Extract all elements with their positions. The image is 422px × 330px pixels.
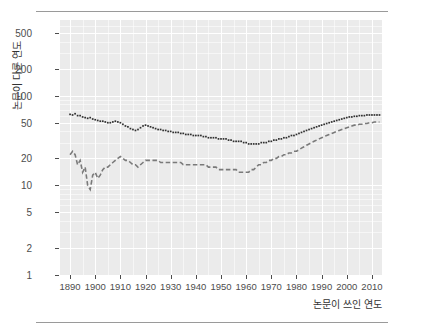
series-point-upper bbox=[172, 132, 174, 134]
series-point-upper bbox=[341, 118, 343, 120]
series-point-upper bbox=[303, 131, 305, 133]
series-point-upper bbox=[278, 138, 280, 140]
series-point-upper bbox=[145, 124, 147, 126]
y-axis-tick-label: 10 bbox=[21, 180, 32, 191]
y-axis-tick-mark bbox=[55, 33, 59, 34]
series-point-upper bbox=[205, 136, 207, 138]
series-point-upper bbox=[311, 128, 313, 130]
series-point-upper bbox=[331, 121, 333, 123]
y-axis-tick-label: 20 bbox=[21, 153, 32, 164]
series-point-upper bbox=[323, 123, 325, 125]
series-point-upper bbox=[210, 137, 212, 139]
series-point-upper bbox=[140, 127, 142, 129]
series-point-upper bbox=[233, 140, 235, 142]
series-point-upper bbox=[165, 130, 167, 132]
series-point-upper bbox=[185, 134, 187, 136]
series-point-upper bbox=[263, 142, 265, 144]
y-axis-tick-mark bbox=[55, 212, 59, 213]
series-point-upper bbox=[301, 132, 303, 134]
series-point-upper bbox=[238, 140, 240, 142]
series-point-upper bbox=[187, 134, 189, 136]
x-axis-tick-label: 1990 bbox=[311, 281, 332, 292]
series-point-upper bbox=[203, 136, 205, 138]
series-point-upper bbox=[286, 137, 288, 139]
series-point-upper bbox=[150, 126, 152, 128]
y-axis-title: 논문이 다른 연도 bbox=[9, 26, 24, 126]
x-axis-tick-mark bbox=[196, 275, 197, 279]
series-point-upper bbox=[117, 121, 119, 123]
series-point-upper bbox=[348, 116, 350, 118]
x-axis-tick-mark bbox=[271, 275, 272, 279]
x-axis-tick-label: 2010 bbox=[361, 281, 382, 292]
series-point-upper bbox=[109, 122, 111, 124]
series-point-upper bbox=[338, 119, 340, 121]
series-line-lower bbox=[70, 122, 379, 190]
x-axis-tick-label: 1910 bbox=[110, 281, 131, 292]
x-axis-tick-label: 1920 bbox=[135, 281, 156, 292]
series-point-upper bbox=[135, 130, 137, 132]
series-point-upper bbox=[296, 134, 298, 136]
series-point-upper bbox=[127, 126, 129, 128]
series-point-upper bbox=[72, 114, 74, 116]
series-point-upper bbox=[125, 125, 127, 127]
series-point-upper bbox=[291, 135, 293, 137]
series-point-upper bbox=[102, 120, 104, 122]
series-point-upper bbox=[225, 138, 227, 140]
series-point-upper bbox=[167, 131, 169, 133]
series-point-upper bbox=[89, 117, 91, 119]
series-point-upper bbox=[306, 130, 308, 132]
series-point-upper bbox=[281, 138, 283, 140]
y-axis-tick-label: 500 bbox=[15, 28, 32, 39]
series-point-upper bbox=[155, 128, 157, 130]
series-point-upper bbox=[215, 137, 217, 139]
series-point-upper bbox=[120, 122, 122, 124]
x-axis-tick-label: 1950 bbox=[210, 281, 231, 292]
series-point-upper bbox=[228, 139, 230, 141]
x-axis-tick-label: 1930 bbox=[160, 281, 181, 292]
series-point-upper bbox=[353, 115, 355, 117]
series-point-upper bbox=[265, 142, 267, 144]
series-point-upper bbox=[326, 123, 328, 125]
y-axis-tick-mark bbox=[55, 158, 59, 159]
series-point-upper bbox=[77, 115, 79, 117]
y-axis-tick-mark bbox=[55, 123, 59, 124]
series-point-upper bbox=[240, 140, 242, 142]
y-axis-tick-label: 100 bbox=[15, 90, 32, 101]
series-point-upper bbox=[346, 117, 348, 119]
series-point-upper bbox=[160, 129, 162, 131]
x-axis-tick-label: 1970 bbox=[261, 281, 282, 292]
y-axis-tick-mark bbox=[55, 275, 59, 276]
series-point-upper bbox=[208, 137, 210, 139]
top-divider-rule bbox=[36, 11, 388, 12]
series-point-upper bbox=[132, 129, 134, 131]
series-point-upper bbox=[376, 114, 378, 116]
y-axis-tick-label: 200 bbox=[15, 63, 32, 74]
series-point-upper bbox=[157, 129, 159, 131]
series-point-upper bbox=[198, 135, 200, 137]
series-point-upper bbox=[82, 116, 84, 118]
series-point-upper bbox=[313, 127, 315, 129]
y-axis-tick-label: 50 bbox=[21, 117, 32, 128]
series-point-upper bbox=[218, 138, 220, 140]
x-axis-tick-mark bbox=[70, 275, 71, 279]
x-axis-tick-mark bbox=[146, 275, 147, 279]
series-point-upper bbox=[195, 135, 197, 137]
series-point-upper bbox=[361, 115, 363, 117]
y-axis-tick-label: 1 bbox=[26, 270, 32, 281]
series-point-upper bbox=[175, 132, 177, 134]
series-point-upper bbox=[107, 122, 109, 124]
series-point-upper bbox=[162, 130, 164, 132]
series-point-upper bbox=[268, 140, 270, 142]
series-point-upper bbox=[283, 137, 285, 139]
series-point-upper bbox=[316, 126, 318, 128]
series-point-upper bbox=[180, 133, 182, 135]
series-point-upper bbox=[104, 121, 106, 123]
x-axis-tick-mark bbox=[372, 275, 373, 279]
data-series-group bbox=[60, 20, 382, 275]
series-point-upper bbox=[213, 137, 215, 139]
series-point-upper bbox=[177, 132, 179, 134]
series-point-upper bbox=[343, 117, 345, 119]
series-point-upper bbox=[250, 143, 252, 145]
series-point-upper bbox=[273, 139, 275, 141]
x-axis-tick-label: 1940 bbox=[185, 281, 206, 292]
